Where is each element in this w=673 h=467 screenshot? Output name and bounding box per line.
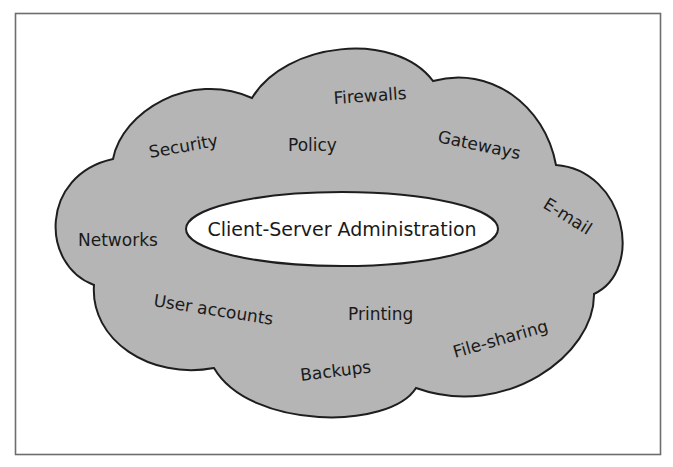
topic-printing: Printing — [348, 304, 413, 324]
concept-cloud-diagram: Client-Server Administration Firewalls S… — [0, 0, 673, 467]
center-label: Client-Server Administration — [207, 218, 476, 240]
topic-policy: Policy — [288, 135, 337, 155]
topic-networks: Networks — [78, 230, 158, 250]
